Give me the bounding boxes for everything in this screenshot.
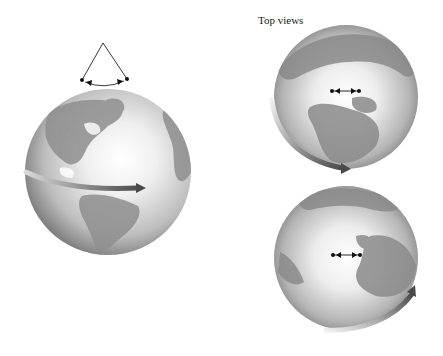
pendulum-cone <box>82 43 127 86</box>
diagram-canvas <box>0 0 443 356</box>
side-view-globe <box>25 89 192 255</box>
pendulum-swing-arrowheads-icon <box>80 77 129 86</box>
